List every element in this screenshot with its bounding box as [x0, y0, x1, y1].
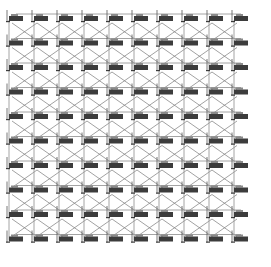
- mesh-network-diagram: [0, 0, 271, 267]
- network-nodes: [6, 10, 248, 243]
- network-links: [9, 14, 241, 241]
